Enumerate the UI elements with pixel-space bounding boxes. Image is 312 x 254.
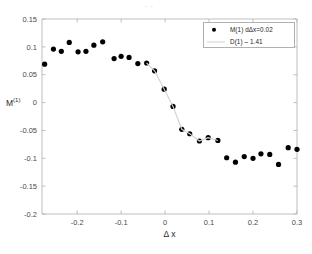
data-point [51,46,56,51]
axis-frame-top-right [42,19,297,214]
data-point [83,49,88,54]
data-point [286,145,291,150]
y-tick-label: -0.2 [24,210,37,219]
legend-line-icon [204,35,230,48]
data-point [59,49,64,54]
legend-label-m1: M(1) dΔx=0.02 [230,26,273,33]
data-point [100,39,105,44]
data-point [126,55,131,60]
y-tick-label: -0.15 [20,182,37,191]
data-point [91,43,96,48]
data-point [233,160,238,165]
data-point [42,62,47,67]
y-tick-label: 0 [33,98,37,107]
x-tick-label: 0 [163,218,167,227]
data-point [258,151,263,156]
y-tick-label: 0.1 [27,43,37,52]
legend-label-d1: D(1) – 1.41 [230,38,263,45]
x-tick-label: -0.1 [115,218,128,227]
y-tick-label: -0.1 [24,154,37,163]
data-point [242,154,247,159]
y-tick-label: 0.15 [22,15,37,24]
y-tick-label: 0.05 [22,70,37,79]
data-point [276,162,281,167]
data-point [224,155,229,160]
x-axis-title: Δ x [164,229,177,239]
data-point [267,152,272,157]
legend-entry-d1: D(1) – 1.41 [204,35,294,48]
fit-line [147,63,218,141]
data-point [250,156,255,161]
data-point [135,61,140,66]
data-point [112,56,117,61]
legend: M(1) dΔx=0.02 D(1) – 1.41 [203,22,295,48]
data-point [75,49,80,54]
data-point [119,54,124,59]
x-tick-label: 0.3 [292,218,302,227]
axis-frame-left-bottom [42,19,297,214]
y-tick-label: -0.05 [20,126,37,135]
data-point [294,147,299,152]
y-axis-title: M(1) [6,97,20,107]
x-tick-label: -0.2 [71,218,84,227]
x-tick-label: 0.1 [204,218,214,227]
x-tick-label: 0.2 [248,218,258,227]
figure-container: - - 0.150.10.050-0.05-0.1-0.15-0.2-0.2-0… [0,0,312,254]
data-point [67,40,72,45]
